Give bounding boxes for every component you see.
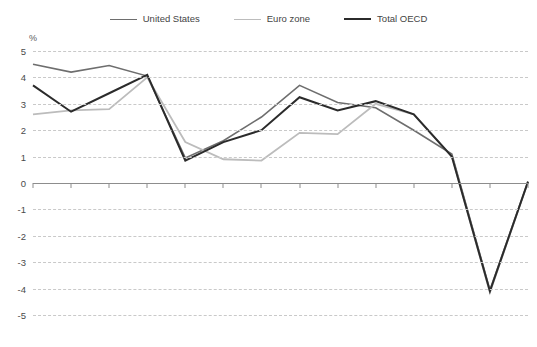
plot-area: 543210-1-2-3-4-5199719981999200020012002… — [33, 51, 528, 315]
gridline — [33, 51, 528, 52]
legend-label: Euro zone — [267, 14, 310, 24]
gridline — [33, 130, 528, 131]
gridline — [33, 236, 528, 237]
y-axis-tick-label: -4 — [18, 283, 26, 294]
x-axis-tick — [337, 183, 338, 188]
legend-item[interactable]: Euro zone — [234, 14, 310, 24]
gridline — [33, 262, 528, 263]
legend-line-swatch — [110, 19, 137, 20]
x-axis-tick — [375, 183, 376, 188]
x-axis-tick — [299, 183, 300, 188]
x-axis-tick — [71, 183, 72, 188]
line-chart: United StatesEuro zoneTotal OECD % 54321… — [0, 0, 537, 347]
series-line — [33, 77, 528, 292]
gridline — [33, 209, 528, 210]
x-axis-tick — [489, 183, 490, 188]
gridline — [33, 77, 528, 78]
gridline — [33, 157, 528, 158]
legend-item[interactable]: Total OECD — [344, 14, 427, 24]
y-axis-tick-label: 3 — [21, 98, 26, 109]
x-axis-tick — [223, 183, 224, 188]
x-axis-tick — [147, 183, 148, 188]
legend-label: Total OECD — [377, 14, 427, 24]
y-axis-tick-label: -1 — [18, 204, 26, 215]
x-axis-tick — [109, 183, 110, 188]
x-axis-tick — [33, 183, 34, 188]
y-axis-tick-label: 4 — [21, 72, 26, 83]
y-axis-tick-label: -2 — [18, 230, 26, 241]
legend-line-swatch — [234, 19, 261, 20]
legend-line-swatch — [344, 18, 371, 20]
y-axis-tick-label: -3 — [18, 257, 26, 268]
y-axis-tick-label: 2 — [21, 125, 26, 136]
x-axis-tick — [413, 183, 414, 188]
gridline — [33, 104, 528, 105]
y-axis-unit-label: % — [29, 33, 37, 43]
gridline — [33, 315, 528, 316]
legend-label: United States — [143, 14, 200, 24]
legend-item[interactable]: United States — [110, 14, 200, 24]
gridline — [33, 289, 528, 290]
y-axis-tick-label: 5 — [21, 46, 26, 57]
chart-legend: United StatesEuro zoneTotal OECD — [0, 8, 537, 30]
y-axis-tick-label: -5 — [18, 310, 26, 321]
y-axis-tick-label: 0 — [21, 178, 26, 189]
x-axis-tick — [451, 183, 452, 188]
x-axis-tick — [261, 183, 262, 188]
series-line — [33, 64, 528, 290]
y-axis-tick-label: 1 — [21, 151, 26, 162]
zero-axis-line — [33, 183, 528, 184]
x-axis-tick — [185, 183, 186, 188]
x-axis-tick — [528, 183, 529, 188]
